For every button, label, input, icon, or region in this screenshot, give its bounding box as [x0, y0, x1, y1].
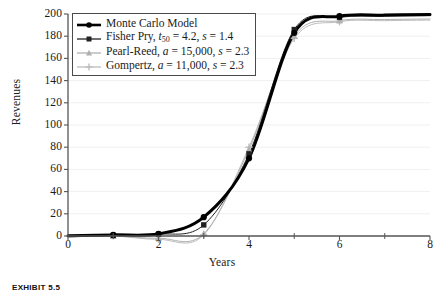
y-axis-title: Revenues	[10, 79, 22, 125]
series-monte-carlo-model-marker-circle	[246, 155, 252, 161]
legend-marker-square-icon	[87, 37, 92, 42]
y-tick-label: 100	[32, 119, 62, 131]
legend-item-gompertz: Gompertz, a = 11,000, s = 2.3	[76, 58, 249, 72]
legend-label-monte-carlo-model: Monte Carlo Model	[106, 17, 197, 29]
y-tick-label: 80	[32, 141, 62, 153]
x-tick-label: 2	[147, 238, 171, 250]
legend-marker-triangle-icon	[76, 47, 102, 59]
series-monte-carlo-model-marker-circle	[336, 13, 342, 19]
figure-caption: EXHIBIT 5.5	[12, 283, 60, 292]
y-tick-label: 180	[32, 30, 62, 42]
legend-item-monte-carlo-model: Monte Carlo Model	[76, 16, 249, 30]
series-fisher-pry-marker-square	[201, 222, 206, 227]
legend-marker-square-icon	[76, 33, 102, 45]
y-tick-label: 140	[32, 75, 62, 87]
legend-label-fisher-pry: Fisher Pry, t50 = 4.2, s = 1.4	[106, 30, 233, 44]
y-tick-label: 120	[32, 97, 62, 109]
legend-marker-plus-icon	[76, 61, 102, 73]
legend-label-pearl-reed: Pearl-Reed, a = 15,000, s = 2.3	[106, 45, 249, 57]
y-tick-label: 60	[32, 163, 62, 175]
figure-container: 020406080100120140160180200 02468 Revenu…	[0, 0, 444, 295]
legend-item-fisher-pry: Fisher Pry, t50 = 4.2, s = 1.4	[76, 30, 249, 44]
y-tick-label: 40	[32, 186, 62, 198]
legend-swatch-gompertz	[76, 59, 102, 71]
legend-item-pearl-reed: Pearl-Reed, a = 15,000, s = 2.3	[76, 44, 249, 58]
series-monte-carlo-model-marker-circle	[201, 214, 207, 220]
legend-swatch-pearl-reed	[76, 45, 102, 57]
x-tick-label: 6	[328, 238, 352, 250]
y-tick-label: 200	[32, 8, 62, 20]
legend-marker-circle-icon	[76, 19, 102, 31]
legend-label-gompertz: Gompertz, a = 11,000, s = 2.3	[106, 59, 244, 71]
x-tick-label: 8	[418, 238, 442, 250]
legend-marker-circle-icon	[86, 22, 92, 28]
x-axis-title: Years	[0, 256, 444, 268]
y-tick-label: 160	[32, 52, 62, 64]
chart-legend: Monte Carlo ModelFisher Pry, t50 = 4.2, …	[72, 13, 256, 76]
x-tick-label: 0	[56, 238, 80, 250]
legend-swatch-monte-carlo-model	[76, 17, 102, 29]
legend-swatch-fisher-pry	[76, 31, 102, 43]
y-axis-tick-labels: 020406080100120140160180200	[28, 0, 62, 236]
series-monte-carlo-model-marker-circle	[291, 30, 297, 36]
x-axis-tick-labels: 02468	[0, 238, 444, 258]
x-tick-label: 4	[237, 238, 261, 250]
y-tick-label: 20	[32, 208, 62, 220]
